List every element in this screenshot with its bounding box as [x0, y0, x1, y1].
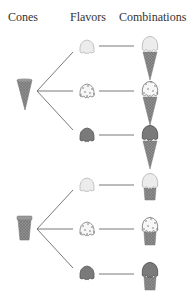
vanilla-sugar-cone-icon: [142, 36, 158, 80]
cup-cone-icon: [17, 216, 32, 240]
chocolate-scoop-icon: [80, 266, 94, 280]
chocolate-scoop-icon: [80, 128, 94, 142]
branch-group-sugar-cone: [17, 36, 158, 169]
vanilla-scoop-icon: [80, 40, 94, 54]
chocolate-sugar-cone-icon: [142, 125, 158, 169]
branch-line: [37, 52, 73, 91]
chocolate-chip-scoop-icon: [80, 84, 95, 98]
chocolate-cup-cone-icon: [142, 262, 158, 290]
branch-line: [37, 190, 73, 229]
chocolate-chip-scoop-icon: [80, 222, 95, 236]
vanilla-scoop-icon: [80, 178, 94, 192]
sugar-cone-icon: [17, 78, 32, 110]
vanilla-cup-cone-icon: [142, 173, 158, 200]
branch-line: [37, 91, 73, 130]
chocolate-chip-cup-cone-icon: [142, 217, 158, 245]
branch-line: [37, 229, 73, 268]
branch-group-cup-cone: [17, 173, 158, 290]
chocolate-chip-sugar-cone-icon: [142, 81, 158, 125]
tree-diagram: [0, 0, 188, 304]
